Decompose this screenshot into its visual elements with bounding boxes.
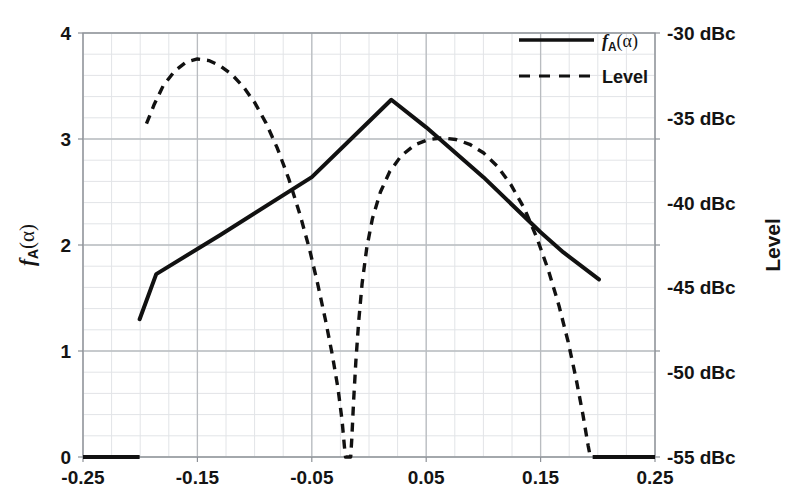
y-tick-label-left: 4 bbox=[60, 23, 71, 44]
y-tick-label-right: -30 dBc bbox=[667, 23, 736, 44]
y-tick-label-right: -55 dBc bbox=[667, 447, 736, 468]
legend-label-fa-arg: (α) bbox=[617, 31, 638, 52]
chart-container: -0.25-0.15-0.050.050.150.25 01234 -55 dB… bbox=[0, 0, 807, 504]
axis-title-right-text: Level bbox=[761, 218, 784, 272]
y-tick-label-left: 2 bbox=[60, 235, 71, 256]
y-tick-label-left: 1 bbox=[60, 341, 71, 362]
legend-label-fa: fA(α) bbox=[602, 31, 638, 54]
legend-label-level: Level bbox=[602, 67, 648, 87]
y-tick-label-right: -40 dBc bbox=[667, 193, 736, 214]
y-tick-label-left: 0 bbox=[60, 447, 71, 468]
axis-title-right: Level bbox=[761, 218, 784, 272]
axis-title-left: fA(α) bbox=[15, 224, 41, 266]
x-tick-label: -0.25 bbox=[61, 467, 105, 488]
x-tick-label: -0.05 bbox=[290, 467, 334, 488]
y-tick-label-right: -50 dBc bbox=[667, 362, 736, 383]
y-tick-label-right: -45 dBc bbox=[667, 277, 736, 298]
y-tick-label-left: 3 bbox=[60, 129, 71, 150]
y-tick-label-right: -35 dBc bbox=[667, 108, 736, 129]
chart-canvas: -0.25-0.15-0.050.050.150.25 01234 -55 dB… bbox=[0, 0, 807, 504]
x-tick-label: 0.05 bbox=[408, 467, 445, 488]
axis-title-left-arg: (α) bbox=[15, 224, 39, 249]
axis-title-left-sub: A bbox=[25, 249, 41, 259]
x-tick-label: 0.25 bbox=[637, 467, 674, 488]
x-tick-label: -0.15 bbox=[176, 467, 220, 488]
x-tick-label: 0.15 bbox=[522, 467, 559, 488]
svg-text:fA(α): fA(α) bbox=[15, 224, 41, 266]
